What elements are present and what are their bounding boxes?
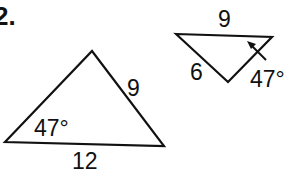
- angle-pointer-arrow-icon: [247, 41, 266, 60]
- triangle-left-shape: [5, 51, 164, 146]
- problem-number: 2.: [0, 1, 16, 31]
- triangle-right-angle-label: 47°: [250, 66, 284, 92]
- triangle-left: 9 12 47°: [5, 51, 164, 174]
- figure: 2. 9 12 47° 9 6 47°: [0, 0, 284, 174]
- triangle-right-side-left-label: 6: [190, 59, 203, 85]
- triangle-right-side-top-label: 9: [218, 6, 231, 32]
- triangle-left-side-bottom-label: 12: [72, 148, 98, 174]
- triangle-left-side-right-label: 9: [127, 75, 140, 101]
- triangle-right: 9 6 47°: [176, 6, 284, 92]
- triangle-left-angle-label: 47°: [34, 115, 69, 141]
